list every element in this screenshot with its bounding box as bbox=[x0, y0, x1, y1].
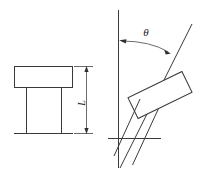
upright-head-rectangle bbox=[15, 67, 73, 88]
angle-arrow-end-icon bbox=[164, 50, 171, 55]
upright-view: L bbox=[14, 66, 93, 134]
tilted-head-group bbox=[128, 72, 192, 119]
dimension-label-L: L bbox=[76, 100, 87, 107]
diagram-root: L θ bbox=[0, 0, 201, 181]
angle-label-theta: θ bbox=[143, 26, 149, 38]
diagram-canvas: L θ bbox=[0, 0, 201, 181]
angle-arrow-start-icon bbox=[119, 39, 126, 43]
angle-arc bbox=[122, 41, 169, 52]
tilted-left-leg bbox=[114, 99, 140, 156]
tilted-view: θ bbox=[108, 10, 192, 168]
tilted-head-rectangle bbox=[128, 72, 192, 119]
